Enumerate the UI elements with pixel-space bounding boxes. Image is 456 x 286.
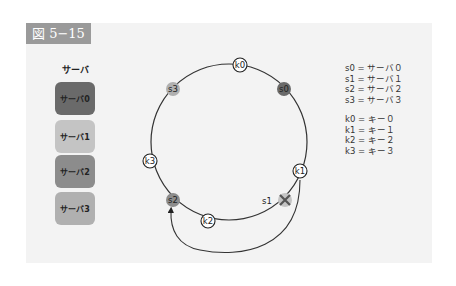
svg-text:s2: s2 — [168, 195, 178, 205]
ring-server-s3: s3 — [166, 82, 180, 96]
svg-text:k1: k1 — [295, 166, 305, 176]
ring-server-s1-removed: s1 — [262, 193, 292, 207]
hash-ring-diagram: s0 s3 s2 s1 k0 k1 k2 k3 — [0, 0, 456, 286]
ring-key-k1: k1 — [293, 164, 307, 178]
svg-text:s1: s1 — [262, 196, 272, 206]
svg-text:k0: k0 — [235, 60, 245, 70]
ring-server-s2: s2 — [166, 193, 180, 207]
ring-key-k0: k0 — [233, 58, 247, 72]
svg-text:s3: s3 — [168, 84, 178, 94]
svg-text:k3: k3 — [145, 156, 155, 166]
svg-text:k2: k2 — [203, 216, 213, 226]
ring-key-k2: k2 — [201, 214, 215, 228]
svg-text:s0: s0 — [279, 84, 289, 94]
remap-arrow — [171, 180, 300, 253]
ring-key-k3: k3 — [143, 154, 157, 168]
ring-server-s0: s0 — [277, 82, 291, 96]
